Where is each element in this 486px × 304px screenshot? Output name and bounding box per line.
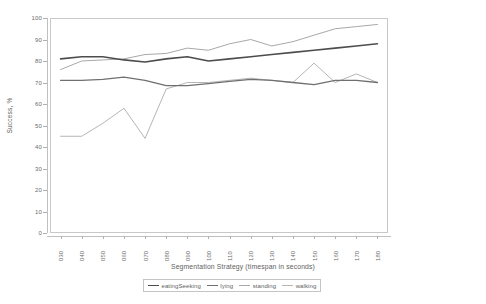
y-tick-label-text: 100	[18, 15, 42, 21]
legend-item-lying[interactable]: lying	[207, 283, 233, 289]
legend-item-label: walking	[296, 283, 317, 289]
x-tick-label: 130	[267, 240, 276, 260]
x-tick-label: 080	[162, 240, 171, 260]
y-tick-label: 100	[12, 15, 42, 22]
y-tick	[43, 126, 47, 127]
y-tick	[43, 83, 47, 84]
series-line-standing	[61, 24, 378, 69]
x-tick-label: 110	[225, 240, 234, 260]
y-tick-label-text: 90	[18, 37, 42, 43]
y-tick-label: 50	[12, 123, 42, 130]
legend-item-eatingseeking[interactable]: eatingSeeking	[148, 283, 201, 289]
y-tick	[43, 40, 47, 41]
x-tick-label-text: 120	[248, 239, 254, 261]
x-tick-label: 100	[204, 240, 213, 260]
x-tick-label-text: 180	[375, 239, 381, 261]
line-chart: 0102030405060708090100 Success, % 030040…	[0, 0, 486, 304]
x-tick-label: 140	[288, 240, 297, 260]
x-tick-label: 090	[183, 240, 192, 260]
x-tick-label-text: 070	[143, 239, 149, 261]
y-tick	[43, 18, 47, 19]
y-axis-line	[47, 18, 48, 233]
y-tick	[43, 104, 47, 105]
series-lines	[50, 18, 388, 233]
legend-item-label: standing	[253, 283, 277, 289]
y-tick-label-text: 20	[18, 187, 42, 193]
y-tick-label-text: 80	[18, 58, 42, 64]
y-tick-label-text: 50	[18, 123, 42, 129]
x-tick-label-text: 130	[269, 239, 275, 261]
legend-item-standing[interactable]: standing	[239, 283, 276, 289]
y-tick	[43, 212, 47, 213]
x-tick-label-text: 030	[58, 239, 64, 261]
x-axis-line	[47, 236, 391, 237]
x-tick-label: 070	[141, 240, 150, 260]
x-tick-label: 180	[373, 240, 382, 260]
y-tick-label: 0	[12, 230, 42, 237]
x-tick-label: 030	[56, 240, 65, 260]
x-tick-label-text: 050	[100, 239, 106, 261]
legend-swatch-icon	[207, 285, 218, 286]
x-tick-label-text: 110	[227, 239, 233, 261]
x-tick-label-text: 060	[121, 239, 127, 261]
chart-legend: eatingSeekinglyingstandingwalking	[143, 279, 321, 292]
y-tick-label: 90	[12, 37, 42, 44]
x-tick-label: 120	[246, 240, 255, 260]
y-tick	[43, 233, 47, 234]
y-tick-label: 60	[12, 101, 42, 108]
y-tick-label-text: 10	[18, 209, 42, 215]
y-tick-label-text: 70	[18, 80, 42, 86]
x-axis-title: Segmentation Strategy (timespan in secon…	[0, 263, 486, 270]
y-tick-label: 30	[12, 166, 42, 173]
x-tick-label: 170	[352, 240, 361, 260]
y-tick	[43, 61, 47, 62]
legend-item-label: eatingSeeking	[162, 283, 201, 289]
y-tick-label: 10	[12, 209, 42, 216]
x-tick-label: 150	[310, 240, 319, 260]
x-tick-label-text: 150	[312, 239, 318, 261]
x-tick-label-text: 040	[79, 239, 85, 261]
x-tick-label-text: 160	[333, 239, 339, 261]
y-axis-title: Success, %	[6, 86, 13, 146]
x-tick-label: 040	[77, 240, 86, 260]
y-tick	[43, 147, 47, 148]
legend-swatch-icon	[282, 285, 293, 286]
x-tick-label: 060	[119, 240, 128, 260]
x-tick-label-text: 090	[185, 239, 191, 261]
x-tick-label-text: 170	[354, 239, 360, 261]
legend-item-walking[interactable]: walking	[282, 283, 316, 289]
x-tick-label-text: 080	[164, 239, 170, 261]
y-tick-label-text: 0	[18, 230, 42, 236]
y-tick-label-text: 60	[18, 101, 42, 107]
y-tick	[43, 190, 47, 191]
x-tick-label-text: 140	[290, 239, 296, 261]
y-tick-label: 40	[12, 144, 42, 151]
y-tick	[43, 169, 47, 170]
legend-swatch-icon	[239, 285, 250, 286]
x-tick-label-text: 100	[206, 239, 212, 261]
y-tick-label: 20	[12, 187, 42, 194]
y-tick-label: 70	[12, 80, 42, 87]
series-line-walking	[61, 63, 378, 138]
y-tick-label-text: 30	[18, 166, 42, 172]
legend-item-label: lying	[220, 283, 233, 289]
x-tick-label: 050	[98, 240, 107, 260]
legend-swatch-icon	[148, 285, 159, 286]
x-tick-label: 160	[331, 240, 340, 260]
y-tick-label: 80	[12, 58, 42, 65]
y-tick-label-text: 40	[18, 144, 42, 150]
